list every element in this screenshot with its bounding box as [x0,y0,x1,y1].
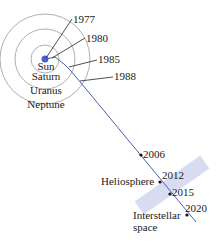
voyager-diagram: 1977 1980 1985 1988 2006 2012 2015 2020 … [0,0,216,244]
label-2020: 2020 [185,202,208,214]
label-1988: 1988 [114,70,137,82]
label-2015: 2015 [172,186,195,198]
label-interstellar: Interstellar [133,209,181,221]
label-1985: 1985 [98,53,121,65]
leader-1985 [69,60,97,67]
diagram-canvas: 1977 1980 1985 1988 2006 2012 2015 2020 … [0,0,216,244]
label-uranus: Uranus [30,84,62,96]
label-heliosphere: Heliosphere [101,175,154,187]
leader-1977 [46,19,72,58]
label-saturn: Saturn [32,70,61,82]
label-neptune: Neptune [27,98,64,110]
label-2006: 2006 [143,148,166,160]
label-space: space [133,221,158,233]
label-1980: 1980 [86,32,109,44]
label-2012: 2012 [162,169,184,181]
label-1977: 1977 [73,13,96,25]
